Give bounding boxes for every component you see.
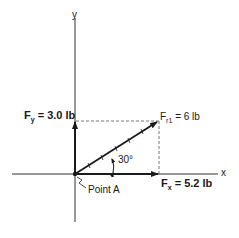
angle-arc — [112, 159, 114, 173]
y-axis-label: y — [72, 10, 77, 20]
x-axis-label: x — [221, 168, 226, 178]
fx-label: Fx = 5.2 lb — [161, 178, 212, 189]
angle-label: 30° — [118, 155, 133, 165]
resultant-label: Fr1 = 6 lb — [160, 112, 200, 122]
fy-label: Fy = 3.0 lb — [24, 110, 75, 121]
point-a-leader — [77, 177, 86, 188]
point-a-label: Point A — [88, 185, 120, 195]
point-a-dot — [73, 172, 77, 176]
